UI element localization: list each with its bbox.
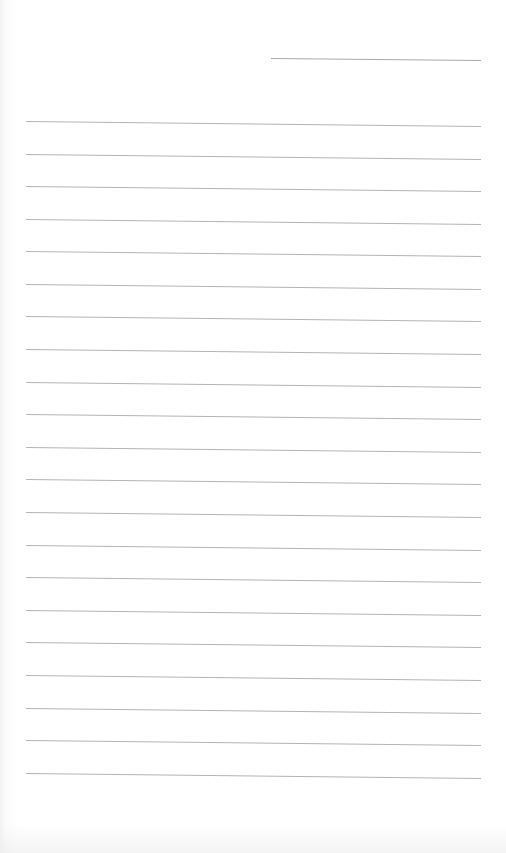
date-line (271, 58, 481, 61)
ruled-line (26, 512, 481, 518)
ruled-line (26, 251, 481, 257)
ruled-line (26, 708, 481, 714)
ruled-line (26, 577, 481, 583)
ruled-line (26, 121, 481, 127)
ruled-line (26, 154, 481, 160)
ruled-line (26, 642, 481, 648)
ruled-line (26, 382, 481, 388)
ruled-line (26, 284, 481, 290)
ruled-line (26, 610, 481, 616)
ruled-line (26, 219, 481, 225)
ruled-line (26, 414, 481, 420)
ruled-line (26, 349, 481, 355)
ruled-line (26, 675, 481, 681)
ruled-line (26, 740, 481, 746)
lined-paper-sheet (0, 0, 506, 853)
ruled-line (26, 773, 481, 779)
ruled-line (26, 447, 481, 453)
ruled-line (26, 545, 481, 551)
ruled-line (26, 186, 481, 192)
ruled-line (26, 316, 481, 322)
ruled-line (26, 479, 481, 485)
paper-edge-shadow (0, 825, 506, 853)
